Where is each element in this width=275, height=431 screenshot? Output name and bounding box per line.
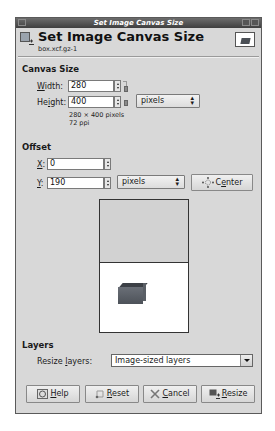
height-label: Height: bbox=[37, 98, 66, 107]
offset-preview-area[interactable] bbox=[99, 199, 189, 333]
center-icon bbox=[202, 177, 214, 188]
dropdown-arrow-icon[interactable] bbox=[240, 355, 252, 366]
canvas-size-heading: Canvas Size bbox=[22, 64, 79, 74]
canvas-size-icon bbox=[20, 32, 34, 46]
close-button[interactable] bbox=[251, 19, 259, 26]
box-image-side bbox=[143, 283, 146, 301]
resize-layers-select[interactable]: Image-sized layers bbox=[111, 354, 253, 367]
image-thumbnail bbox=[235, 32, 255, 47]
chain-link-icon-lower[interactable] bbox=[124, 100, 128, 106]
help-button[interactable]: Help bbox=[26, 385, 80, 403]
window-menu-icon[interactable] bbox=[18, 19, 26, 26]
updown-arrows-icon: ▴▾ bbox=[190, 96, 194, 106]
offset-unit-select[interactable]: pixels ▴▾ bbox=[117, 175, 185, 189]
offset-x-input[interactable]: 0 bbox=[47, 158, 104, 170]
reset-icon bbox=[95, 389, 105, 399]
width-label: Width: bbox=[37, 82, 63, 91]
width-spinner[interactable] bbox=[114, 80, 121, 92]
updown-arrows-icon: ▴▾ bbox=[175, 177, 179, 187]
cancel-button[interactable]: Cancel bbox=[143, 385, 197, 403]
window-title: Set Image Canvas Size bbox=[94, 19, 183, 27]
shade-button[interactable] bbox=[242, 19, 250, 26]
set-canvas-size-dialog: Set Image Canvas Size Set Image Canvas S… bbox=[15, 17, 262, 414]
layers-heading: Layers bbox=[22, 340, 53, 350]
offset-x-spinner[interactable] bbox=[104, 158, 111, 170]
offset-heading: Offset bbox=[22, 142, 51, 152]
center-button[interactable]: Center bbox=[191, 174, 253, 191]
reset-button[interactable]: Reset bbox=[85, 385, 139, 403]
dialog-title: Set Image Canvas Size bbox=[38, 29, 204, 44]
cancel-scissors-icon bbox=[150, 389, 160, 399]
titlebar[interactable]: Set Image Canvas Size bbox=[16, 18, 261, 28]
height-spinner[interactable] bbox=[114, 96, 121, 108]
help-lifebuoy-icon bbox=[37, 389, 48, 399]
height-input[interactable]: 400 bbox=[68, 96, 114, 108]
resize-button[interactable]: Resize bbox=[201, 385, 255, 403]
canvas-dimensions-info: 280 × 400 pixels bbox=[69, 111, 124, 119]
canvas-resolution-info: 72 ppi bbox=[69, 119, 89, 127]
chain-link-icon[interactable] bbox=[124, 86, 128, 92]
canvas-unit-select[interactable]: pixels ▴▾ bbox=[136, 94, 200, 108]
header-separator bbox=[18, 56, 259, 58]
dialog-header: Set Image Canvas Size box.xcf.gz-1 bbox=[16, 28, 261, 55]
offset-x-label: X: bbox=[37, 160, 45, 169]
resize-canvas-icon bbox=[209, 389, 220, 399]
resize-layers-label: Resize layers: bbox=[37, 357, 92, 366]
width-input[interactable]: 280 bbox=[68, 80, 114, 92]
offset-y-label: Y: bbox=[37, 179, 44, 188]
image-preview-layer[interactable] bbox=[100, 262, 188, 332]
box-image-front bbox=[118, 287, 143, 304]
offset-y-input[interactable]: 190 bbox=[47, 177, 104, 189]
offset-y-spinner[interactable] bbox=[104, 177, 111, 189]
image-name: box.xcf.gz-1 bbox=[38, 45, 77, 53]
